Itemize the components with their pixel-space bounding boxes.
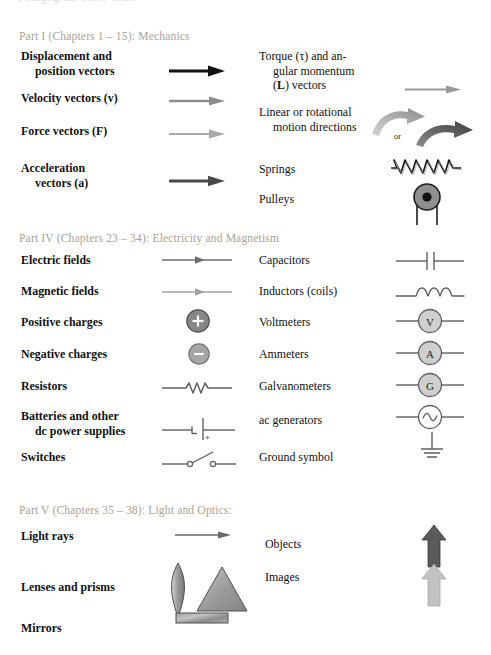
label-line: Mirrors bbox=[21, 621, 62, 635]
label-line: Acceleration bbox=[21, 161, 85, 175]
symbol-lens bbox=[166, 562, 190, 618]
label-line: Ammeters bbox=[259, 347, 309, 361]
label-motion-directions: Linear or rotational motion directions bbox=[259, 105, 357, 134]
symbol-legend-page: Pedagogical Color Chart Part I (Chapters… bbox=[0, 0, 491, 655]
label-line: (L) vectors bbox=[259, 78, 355, 93]
ammeter-glyph: A bbox=[426, 348, 434, 360]
label-inductors: Inductors (coils) bbox=[259, 284, 337, 299]
symbol-galvanometer: G bbox=[395, 372, 465, 398]
section-heading-part-5: Part V (Chapters 35 – 38): Light and Opt… bbox=[19, 504, 232, 517]
label-capacitors: Capacitors bbox=[259, 253, 310, 268]
symbol-battery: + bbox=[161, 417, 237, 443]
label-line: Force vectors (F) bbox=[21, 124, 107, 138]
symbol-ac-generator bbox=[395, 404, 465, 430]
label-line: Light rays bbox=[21, 529, 74, 543]
label-line: motion directions bbox=[259, 120, 357, 135]
symbol-image-arrow bbox=[421, 563, 447, 607]
symbol-resistor bbox=[161, 381, 233, 395]
label-ground-symbol: Ground symbol bbox=[259, 450, 333, 465]
label-line: Electric fields bbox=[21, 253, 91, 267]
label-objects: Objects bbox=[265, 537, 301, 552]
symbol-straight-arrow-black bbox=[168, 64, 226, 78]
label-ammeters: Ammeters bbox=[259, 347, 309, 362]
symbol-mirror bbox=[175, 612, 229, 625]
label-line: Resistors bbox=[21, 379, 67, 393]
label-line: position vectors bbox=[21, 64, 115, 79]
label-line: Torque (τ) and an- bbox=[259, 49, 346, 63]
label-line: Lenses and prisms bbox=[21, 580, 115, 594]
symbol-switch bbox=[161, 449, 237, 469]
label-lenses-prisms: Lenses and prisms bbox=[21, 580, 115, 595]
symbol-straight-arrow-midgray bbox=[168, 94, 226, 108]
label-magnetic-fields: Magnetic fields bbox=[21, 284, 99, 299]
symbol-curved-arrow-dark bbox=[414, 121, 478, 151]
label-batteries: Batteries and other dc power supplies bbox=[21, 409, 125, 438]
label-switches: Switches bbox=[21, 450, 65, 465]
label-line: Linear or rotational bbox=[259, 105, 351, 119]
symbol-magnetic-field-arrow bbox=[161, 286, 233, 298]
symbol-voltmeter: V bbox=[395, 308, 465, 334]
label-line: Springs bbox=[259, 162, 295, 176]
label-line: Galvanometers bbox=[259, 379, 331, 393]
label-line: dc power supplies bbox=[21, 424, 125, 439]
symbol-prism bbox=[196, 566, 248, 612]
label-line: Positive charges bbox=[21, 315, 103, 329]
label-light-rays: Light rays bbox=[21, 529, 74, 544]
label-line: Objects bbox=[265, 537, 301, 551]
label-line: gular momentum bbox=[259, 64, 355, 79]
label-line: Batteries and other bbox=[21, 409, 119, 423]
label-line: Pulleys bbox=[259, 192, 294, 206]
symbol-inductor bbox=[395, 284, 465, 300]
label-line: Displacement and bbox=[21, 49, 112, 63]
symbol-straight-arrow-darkgray bbox=[168, 174, 226, 188]
galvanometer-glyph: G bbox=[426, 380, 434, 392]
symbol-spring-coil bbox=[390, 155, 462, 177]
label-galvanometers: Galvanometers bbox=[259, 379, 331, 394]
label-resistors: Resistors bbox=[21, 379, 67, 394]
symbol-pulley bbox=[405, 182, 449, 226]
label-line: Images bbox=[265, 570, 299, 584]
label-line: Voltmeters bbox=[259, 315, 310, 329]
label-line: Velocity vectors (v) bbox=[21, 91, 118, 105]
label-negative-charges: Negative charges bbox=[21, 347, 107, 362]
or-separator-label: or bbox=[394, 131, 401, 141]
label-line: Magnetic fields bbox=[21, 284, 99, 298]
symbol-electric-field-arrow bbox=[161, 254, 233, 266]
label-line: ac generators bbox=[259, 413, 322, 427]
label-mirrors: Mirrors bbox=[21, 621, 62, 636]
label-velocity: Velocity vectors (v) bbox=[21, 91, 118, 106]
symbol-light-ray-arrow bbox=[174, 529, 232, 541]
label-acceleration: Acceleration vectors (a) bbox=[21, 161, 88, 190]
symbol-capacitor bbox=[395, 251, 465, 271]
section-heading-part-4: Part IV (Chapters 23 – 34): Electricity … bbox=[19, 232, 279, 245]
symbol-object-arrow bbox=[421, 524, 447, 568]
label-line: Ground symbol bbox=[259, 450, 333, 464]
label-positive-charges: Positive charges bbox=[21, 315, 103, 330]
label-springs: Springs bbox=[259, 162, 295, 177]
label-torque: Torque (τ) and an- gular momentum (L) ve… bbox=[259, 49, 355, 93]
symbol-torque-arrow bbox=[404, 83, 462, 96]
symbol-straight-arrow-lightgray bbox=[168, 127, 226, 141]
label-voltmeters: Voltmeters bbox=[259, 315, 310, 330]
label-ac-generators: ac generators bbox=[259, 413, 322, 428]
section-heading-part-1: Part I (Chapters 1 – 15): Mechanics bbox=[19, 30, 190, 43]
label-line: Capacitors bbox=[259, 253, 310, 267]
symbol-ammeter: A bbox=[395, 340, 465, 366]
label-line: vectors (a) bbox=[21, 176, 88, 191]
label-line: Inductors (coils) bbox=[259, 284, 337, 298]
symbol-ground bbox=[415, 431, 449, 463]
label-pulleys: Pulleys bbox=[259, 192, 294, 207]
label-line: Switches bbox=[21, 450, 65, 464]
label-force: Force vectors (F) bbox=[21, 124, 107, 139]
label-images: Images bbox=[265, 570, 299, 585]
label-line: Negative charges bbox=[21, 347, 107, 361]
battery-plus-sign: + bbox=[205, 432, 210, 442]
cutoff-top-text: Pedagogical Color Chart bbox=[18, 0, 458, 5]
symbol-negative-charge bbox=[187, 342, 211, 366]
symbol-positive-charge bbox=[185, 308, 211, 334]
label-displacement: Displacement and position vectors bbox=[21, 49, 115, 78]
label-electric-fields: Electric fields bbox=[21, 253, 91, 268]
voltmeter-glyph: V bbox=[426, 316, 434, 328]
